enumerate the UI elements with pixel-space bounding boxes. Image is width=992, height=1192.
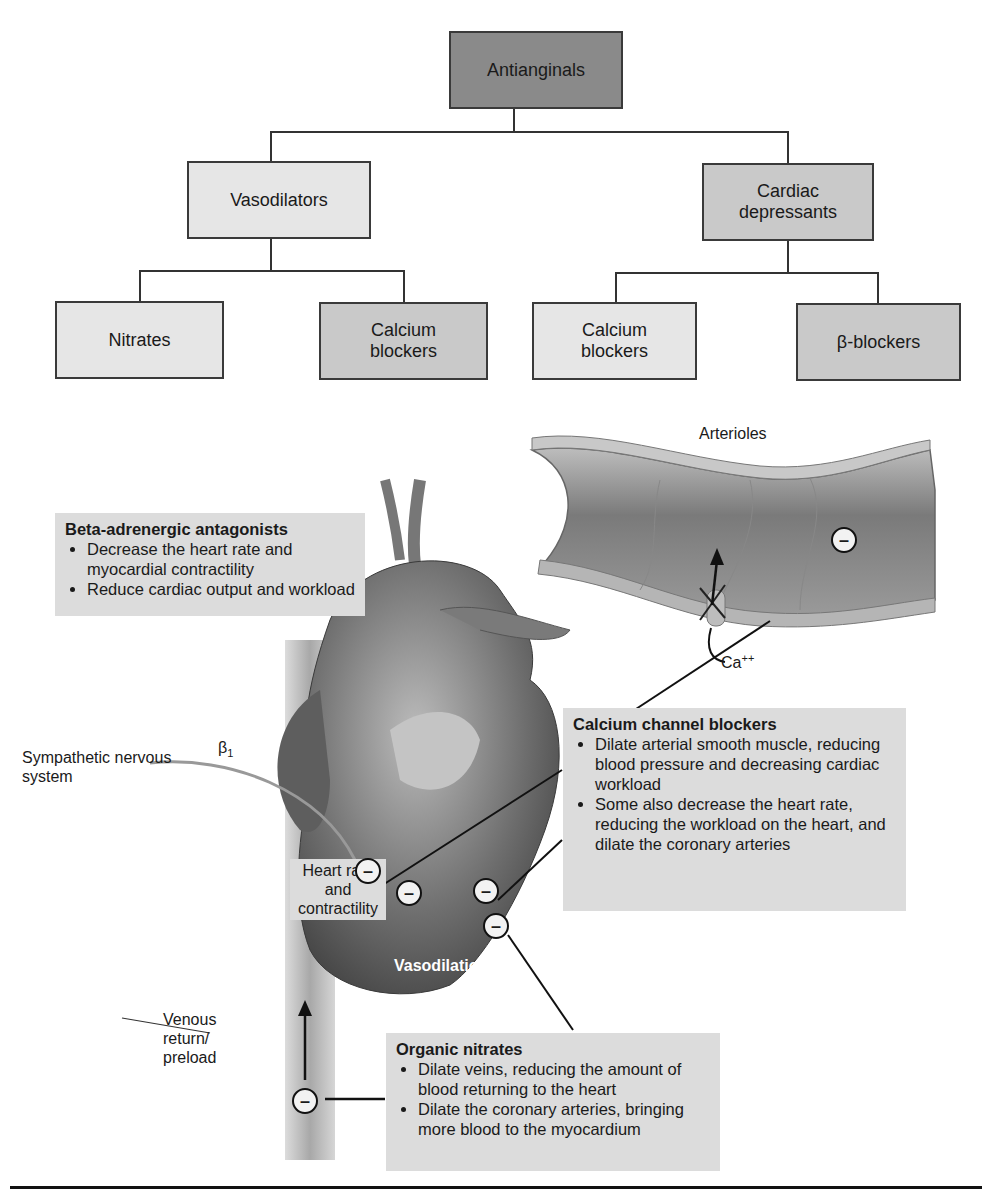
beta-symbol: β [218, 739, 227, 756]
venous-label: Venous return/ preload [163, 1010, 223, 1067]
arterioles-label: Arterioles [699, 424, 767, 443]
bottom-rule [10, 1186, 982, 1189]
info-bullet: Dilate veins, reducing the amount of blo… [418, 1059, 710, 1099]
minus-icon: – [355, 858, 381, 884]
arteriole-illustration [532, 436, 935, 662]
calcium-ion-label: Ca++ [721, 649, 754, 672]
organic-nitrates-box: Organic nitrates Dilate veins, reducing … [386, 1033, 720, 1171]
minus-icon: – [473, 878, 499, 904]
info-title: Beta-adrenergic antagonists [65, 519, 355, 539]
minus-icon: – [483, 913, 509, 939]
calcium-charge: ++ [741, 652, 754, 664]
info-title: Organic nitrates [396, 1039, 710, 1059]
info-bullet: Dilate arterial smooth muscle, reducing … [595, 734, 896, 794]
info-bullet: Some also decrease the heart rate, reduc… [595, 794, 896, 854]
beta-antagonists-box: Beta-adrenergic antagonists Decrease the… [55, 513, 365, 616]
minus-icon: – [831, 527, 857, 553]
calcium-channel-blockers-box: Calcium channel blockers Dilate arterial… [563, 708, 906, 911]
info-title: Calcium channel blockers [573, 714, 896, 734]
beta-subscript: 1 [227, 747, 233, 759]
calcium-ion-text: Ca [721, 654, 741, 671]
info-bullet: Reduce cardiac output and workload [87, 579, 355, 599]
beta1-label: β1 [218, 738, 233, 763]
vasodilation-label: Vasodilation [394, 956, 488, 975]
info-bullet: Dilate the coronary arteries, bringing m… [418, 1099, 710, 1139]
sympathetic-label: Sympathetic nervous system [22, 748, 172, 786]
minus-icon: – [292, 1088, 318, 1114]
minus-icon: – [396, 880, 422, 906]
info-bullet: Decrease the heart rate and myocardial c… [87, 539, 355, 579]
